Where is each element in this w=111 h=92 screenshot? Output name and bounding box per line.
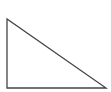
diagram-canvas [0,0,111,92]
right-triangle [7,19,106,88]
